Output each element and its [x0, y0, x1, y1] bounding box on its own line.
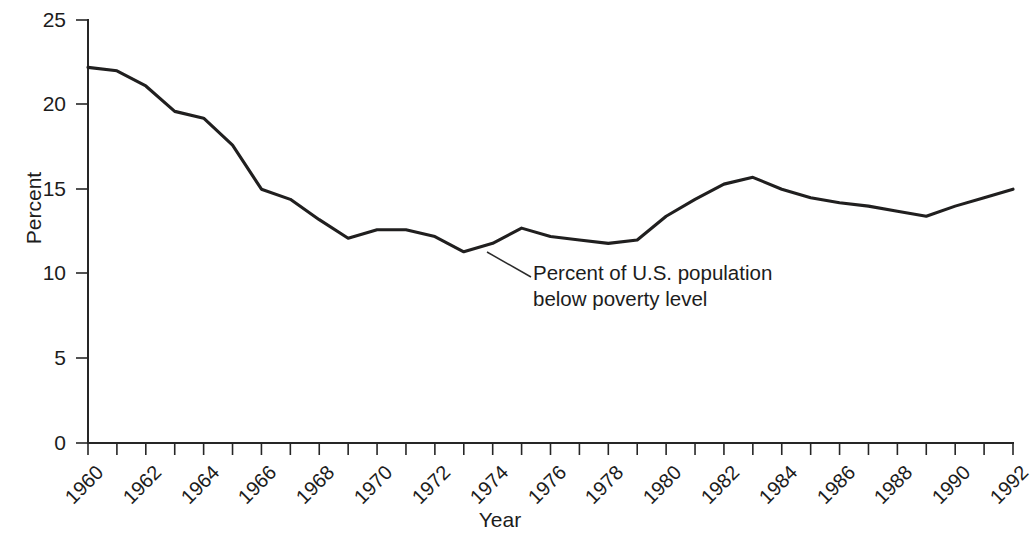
- annotation-line-1: Percent of U.S. population: [533, 260, 772, 286]
- y-tick-label-0: 0: [20, 431, 66, 455]
- x-axis-ticks: [88, 443, 1013, 455]
- y-axis-ticks: [76, 20, 88, 443]
- x-axis-title: Year: [400, 508, 600, 532]
- series-annotation: Percent of U.S. population below poverty…: [533, 260, 772, 312]
- annotation-line-2: below poverty level: [533, 286, 772, 312]
- poverty-rate-series-line: [88, 67, 1013, 251]
- y-axis-title: Percent: [22, 138, 46, 278]
- annotation-leader-line: [487, 252, 531, 277]
- y-tick-label-25: 25: [20, 8, 66, 32]
- y-tick-label-20: 20: [20, 92, 66, 116]
- y-tick-label-5: 5: [20, 346, 66, 370]
